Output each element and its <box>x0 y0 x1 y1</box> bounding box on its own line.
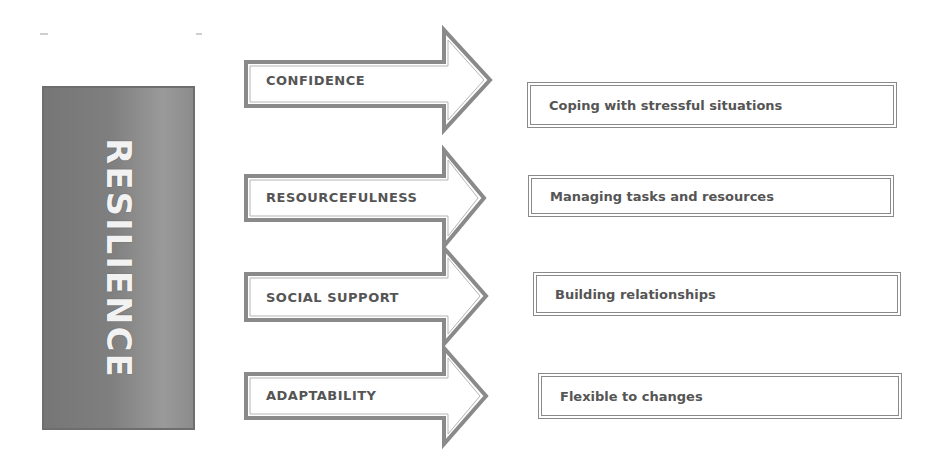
description-text: Building relationships <box>555 287 716 302</box>
factor-label: ADAPTABILITY <box>266 388 377 403</box>
description-text: Managing tasks and resources <box>550 189 774 204</box>
description-box-resourcefulness: Managing tasks and resources <box>528 175 894 217</box>
description-box-confidence: Coping with stressful situations <box>527 82 897 128</box>
factor-label: SOCIAL SUPPORT <box>266 290 399 305</box>
description-box-social-support: Building relationships <box>533 272 901 316</box>
factor-arrow-confidence: CONFIDENCE <box>244 28 494 132</box>
factor-label: RESOURCEFULNESS <box>266 190 417 205</box>
factor-arrow-social-support: SOCIAL SUPPORT <box>244 246 494 346</box>
description-text: Coping with stressful situations <box>549 98 782 113</box>
factor-arrow-resourcefulness: RESOURCEFULNESS <box>244 148 494 248</box>
description-text: Flexible to changes <box>560 389 703 404</box>
factor-label: CONFIDENCE <box>266 73 365 88</box>
factor-arrow-adaptability: ADAPTABILITY <box>244 346 494 446</box>
decorative-mark <box>196 33 202 35</box>
resilience-title: RESILIENCE <box>99 138 139 379</box>
resilience-box: RESILIENCE <box>42 86 195 430</box>
decorative-mark <box>40 33 48 35</box>
description-box-adaptability: Flexible to changes <box>538 373 902 419</box>
